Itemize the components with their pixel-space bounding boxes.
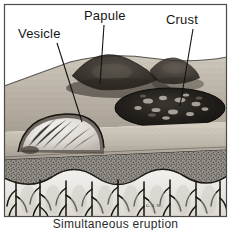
figure-caption: Simultaneous eruption xyxy=(0,218,231,230)
skin-lesion-figure: Vesicle Papule Crust G.J.W. Simultaneous… xyxy=(0,0,231,230)
crust-lesion xyxy=(115,88,225,128)
label-crust: Crust xyxy=(166,12,198,27)
label-papule: Papule xyxy=(84,8,126,23)
artist-signature: G.J.W. xyxy=(146,203,163,208)
label-vesicle: Vesicle xyxy=(18,26,61,41)
